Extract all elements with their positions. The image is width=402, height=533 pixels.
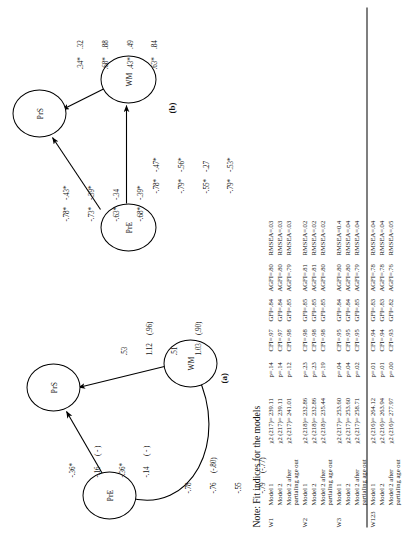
- val: .53: [120, 341, 128, 355]
- val: .68*: [101, 55, 109, 69]
- label-a-WM-PrS-col1: .53 1.12 .51 1.03: [104, 341, 219, 355]
- agfi-value: AGFI=.80: [318, 255, 334, 291]
- rmsea-value: RMSEA=.02: [309, 211, 318, 255]
- rmsea-value: RMSEA=.04: [343, 211, 352, 255]
- label-a-PrE-PrS: -.36* -.16 -.36* -.14 ( - ) ( - ): [52, 442, 167, 477]
- gfi-value: GFI=.84: [334, 291, 343, 321]
- chi-square-value: χ2 (217)= 253.60: [334, 377, 343, 443]
- edge-a-WM-PrS: [78, 365, 168, 387]
- node-a-PrE-label: PrE: [105, 489, 114, 501]
- val: -.63*: [112, 207, 120, 221]
- val: .51: [170, 341, 178, 355]
- val: -.27: [202, 157, 210, 171]
- p-value: p=.19: [318, 351, 334, 377]
- val: ( - ): [142, 442, 150, 456]
- label-b-WM-PrS-col1: .34* .68* .43* .63*: [60, 55, 175, 69]
- agfi-value: AGFI=.80: [275, 255, 284, 291]
- node-a-PrE[interactable]: PrE: [82, 471, 136, 519]
- cfi-value: CFI=.94: [368, 321, 377, 351]
- table-bottom-rule: [366, 7, 367, 527]
- label-b-PrE-PrS-col1: -.78* -.73* -.63* -.68*: [46, 207, 161, 221]
- p-value: p=.01: [368, 351, 377, 377]
- agfi-value: AGFI=.80: [343, 255, 352, 291]
- wave-label: [309, 505, 318, 527]
- val: ( - ): [93, 442, 101, 456]
- gfi-value: GFI=.85: [309, 291, 318, 321]
- label-a-PrE-PrS-col1: -.36* -.16 -.36* -.14: [52, 463, 167, 477]
- gfi-value: GFI=.84: [275, 291, 284, 321]
- table-row: Model 2 after partialing age outχ2 (216)…: [386, 211, 402, 527]
- agfi-value: AGFI=.80: [334, 255, 343, 291]
- p-value: p=.14: [275, 351, 284, 377]
- fit-indices-table-body: W1Model 1χ2 (217)= 239.11p=.14CFI=.97GFI…: [266, 211, 402, 527]
- val: (-.80): [209, 457, 217, 473]
- wave-label: W2: [300, 505, 309, 527]
- chi-square-value: χ2 (217)= 239.11: [266, 377, 275, 443]
- agfi-value: AGFI=.81: [300, 255, 309, 291]
- panel-b-letter: (b): [166, 102, 176, 113]
- cfi-value: CFI=.95: [334, 321, 343, 351]
- label-b-WM-PrS-col2: .32 .88 .49 .84: [60, 35, 175, 49]
- val: [184, 457, 192, 473]
- wave-label: [318, 505, 334, 527]
- chi-square-value: χ2 (216)= 264.12: [368, 377, 377, 443]
- model-label: Model 1: [266, 443, 275, 505]
- val: -.79*: [226, 179, 234, 193]
- path-diagram-a: PrE PrS WM -.36* -.16 -.36* -.14 ( - ) (…: [0, 268, 240, 533]
- wave-label: W123: [368, 505, 377, 527]
- cfi-value: CFI=.98: [300, 321, 309, 351]
- val: -.53*: [226, 157, 234, 171]
- val: -.16: [93, 463, 101, 477]
- node-b-WM-label: WM: [124, 72, 133, 86]
- gfi-value: GFI=.82: [386, 291, 402, 321]
- val: .49: [126, 35, 134, 49]
- label-b-PrE-WM: -.78* -.79* -.55* -.79* -.47* -.56* -.27…: [136, 157, 251, 193]
- val: -.78: [184, 479, 192, 493]
- chi-square-value: χ2 (216)= 263.94: [377, 377, 386, 443]
- val: -.68*: [136, 207, 144, 221]
- val: [170, 321, 178, 335]
- cfi-value: CFI=.98: [309, 321, 318, 351]
- chi-square-value: χ2 (217)= 241.01: [284, 377, 300, 443]
- p-value: p=.12: [284, 351, 300, 377]
- rmsea-value: RMSEA=.02: [300, 211, 309, 255]
- rmsea-value: RMSEA=.03: [284, 211, 300, 255]
- val: .43*: [126, 55, 134, 69]
- wave-label: [275, 505, 284, 527]
- wave-label: [343, 505, 352, 527]
- label-b-PrE-WM-col1: -.78* -.79* -.55* -.79*: [136, 179, 251, 193]
- table-row: W123Model 1χ2 (216)= 264.12p=.01CFI=.94G…: [368, 211, 377, 527]
- gfi-value: GFI=.83: [377, 291, 386, 321]
- agfi-value: AGFI=.81: [309, 255, 318, 291]
- table-row: Model 2χ2 (218)= 232.86p=.23CFI=.98GFI=.…: [309, 211, 318, 527]
- table-row: Model 2χ2 (216)= 263.94p=.01CFI=.94GFI=.…: [377, 211, 386, 527]
- model-label: Model 2 after partialing age out: [284, 443, 300, 505]
- chi-square-value: χ2 (216)= 277.97: [386, 377, 402, 443]
- gfi-value: GFI=.83: [368, 291, 377, 321]
- p-value: p=.04: [334, 351, 343, 377]
- val: -.55*: [202, 179, 210, 193]
- node-b-PrE-label: PrE: [124, 221, 133, 233]
- val: -.73*: [87, 207, 95, 221]
- node-b-PrS[interactable]: PrS: [12, 89, 66, 137]
- val: .32: [76, 35, 84, 49]
- model-label: Model 2: [309, 443, 318, 505]
- table-row: Model 2χ2 (217)= 239.11p=.14CFI=.97GFI=.…: [275, 211, 284, 527]
- table-row: W3Model 1χ2 (217)= 253.60p=.04CFI=.95GFI…: [334, 211, 343, 527]
- model-label: Model 2 after partialing age out: [318, 443, 334, 505]
- val: (.90): [194, 321, 202, 335]
- val: -.78*: [62, 207, 70, 221]
- val: [118, 442, 126, 456]
- model-label: Model 2: [377, 443, 386, 505]
- node-a-PrS[interactable]: PrS: [26, 363, 80, 411]
- val: [234, 457, 242, 473]
- rmsea-value: RMSEA=.05: [386, 211, 402, 255]
- chi-square-value: χ2 (217)= 253.60: [343, 377, 352, 443]
- rmsea-value: RMSEA=.04: [377, 211, 386, 255]
- agfi-value: AGFI=.78: [368, 255, 377, 291]
- val: -.36*: [68, 463, 76, 477]
- label-b-WM-PrS: .34* .68* .43* .63* .32 .88 .49 .84: [60, 35, 175, 69]
- node-a-WM-label: WM: [186, 356, 195, 370]
- gfi-value: GFI=.85: [318, 291, 334, 321]
